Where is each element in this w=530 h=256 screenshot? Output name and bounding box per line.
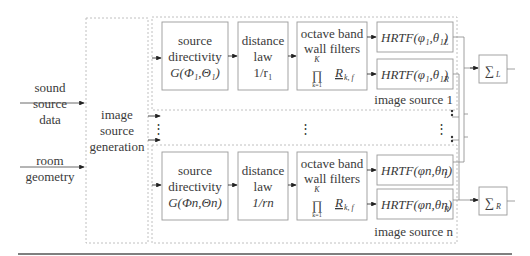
- svg-text:directivity: directivity: [168, 49, 222, 64]
- signal-flow-diagram: sound source data room geometry image so…: [0, 0, 530, 256]
- wall-filters-n-box: octave band wall filters K ∏ k=1 R k, f: [297, 152, 367, 220]
- svg-text:HRTF(φn,θn): HRTF(φn,θn): [380, 197, 452, 212]
- svg-text:1/rn: 1/rn: [252, 195, 274, 210]
- svg-text:∏: ∏: [312, 198, 323, 213]
- svg-text:∏: ∏: [312, 68, 323, 83]
- svg-text:sound: sound: [34, 80, 66, 95]
- hrtf-1-right-box: HRTF(φ₁,θ₁) R: [377, 59, 453, 89]
- svg-text:HRTF(φn,θn): HRTF(φn,θn): [380, 163, 452, 178]
- svg-text:R: R: [334, 195, 343, 210]
- svg-text:image: image: [101, 107, 133, 122]
- distance-law-1-box: distance law 1/r₁: [238, 22, 288, 90]
- svg-text:R: R: [495, 202, 501, 211]
- source-directivity-1-box: source directivity G(Φ₁,Θ₁): [162, 22, 228, 90]
- source-directivity-n-box: source directivity G(Φn,Θn): [162, 152, 228, 220]
- svg-text:generation: generation: [90, 139, 145, 154]
- svg-text:geometry: geometry: [25, 169, 75, 184]
- svg-text:∑: ∑: [485, 195, 494, 210]
- svg-text:G(Φn,Θn): G(Φn,Θn): [168, 195, 222, 210]
- summation-wiring: [452, 37, 478, 200]
- svg-text:source: source: [33, 96, 67, 111]
- svg-text:data: data: [39, 112, 61, 127]
- svg-text:L: L: [443, 171, 449, 180]
- image-source-n-group: image source n source directivity G(Φn,Θ…: [152, 145, 457, 243]
- svg-text:wall filters: wall filters: [304, 41, 360, 56]
- image-source-generation-block: image source generation: [86, 18, 148, 243]
- svg-text:law: law: [254, 179, 273, 194]
- svg-text:L: L: [495, 70, 501, 79]
- svg-text:octave band: octave band: [301, 156, 364, 171]
- svg-text:room: room: [36, 153, 63, 168]
- svg-text:R: R: [443, 205, 449, 214]
- svg-text:L: L: [443, 38, 449, 47]
- input-sound-source-data: sound source data: [20, 80, 84, 127]
- ellipsis-mid: ⋮: [299, 121, 312, 136]
- svg-text:source: source: [178, 33, 212, 48]
- distance-law-n-box: distance law 1/rn: [238, 152, 288, 220]
- ellipsis-right: ⋮: [435, 121, 448, 136]
- svg-text:k, f: k, f: [344, 73, 356, 82]
- svg-text:R: R: [334, 65, 343, 80]
- hrtf-n-left-box: HRTF(φn,θn) L: [377, 155, 453, 185]
- svg-text:distance: distance: [242, 33, 285, 48]
- svg-text:octave band: octave band: [301, 26, 364, 41]
- svg-text:law: law: [254, 49, 273, 64]
- hrtf-1-left-box: HRTF(φ₁,θ₁) L: [377, 22, 453, 52]
- svg-text:K: K: [313, 55, 320, 64]
- svg-text:wall filters: wall filters: [304, 171, 360, 186]
- svg-text:k, f: k, f: [344, 203, 356, 212]
- svg-text:HRTF(φ₁,θ₁): HRTF(φ₁,θ₁): [380, 30, 448, 45]
- svg-text:G(Φ₁,Θ₁): G(Φ₁,Θ₁): [170, 65, 220, 80]
- svg-text:1/r₁: 1/r₁: [254, 65, 273, 80]
- svg-text:∑: ∑: [485, 63, 494, 78]
- svg-text:k=1: k=1: [312, 212, 321, 218]
- sum-right-box: ∑ R: [479, 187, 515, 215]
- svg-text:distance: distance: [242, 163, 285, 178]
- sum-left-box: ∑ L: [479, 55, 515, 83]
- image-source-1-label: image source 1: [374, 92, 453, 107]
- svg-text:source: source: [178, 163, 212, 178]
- image-source-1-group: image source 1 source directivity G(Φ₁,Θ…: [152, 17, 457, 110]
- svg-text:source: source: [100, 123, 134, 138]
- input-room-geometry: room geometry: [20, 153, 84, 184]
- svg-text:R: R: [443, 75, 449, 84]
- hrtf-n-right-box: HRTF(φn,θn) R: [377, 189, 453, 219]
- ellipsis-left: ⋮: [152, 121, 165, 136]
- image-source-n-label: image source n: [374, 224, 453, 239]
- svg-text:k=1: k=1: [312, 82, 321, 88]
- svg-text:directivity: directivity: [168, 179, 222, 194]
- svg-text:HRTF(φ₁,θ₁): HRTF(φ₁,θ₁): [380, 67, 448, 82]
- wall-filters-1-box: octave band wall filters K ∏ k=1 R k, f: [297, 22, 367, 90]
- svg-text:K: K: [313, 185, 320, 194]
